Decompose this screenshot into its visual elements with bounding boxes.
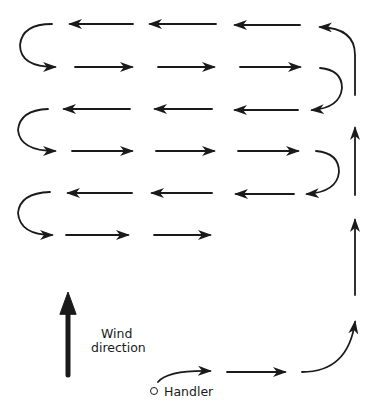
handler-position-icon	[150, 387, 158, 395]
wind-direction-label: Wind direction	[91, 327, 146, 355]
search-pattern-diagram	[0, 0, 371, 411]
right-turn-2	[307, 151, 339, 194]
handler-path-arrows	[158, 322, 355, 382]
handler-label: Handler	[164, 385, 213, 399]
row-3-arrows	[64, 109, 298, 110]
wind-label-line2: direction	[91, 341, 146, 355]
wind-label-line1: Wind	[91, 327, 146, 341]
left-turn-1	[20, 24, 55, 67]
right-turn-1	[312, 68, 342, 110]
wind-direction-arrow-icon	[60, 292, 76, 375]
row-5-arrows	[68, 193, 294, 194]
left-turn-3	[18, 192, 52, 235]
left-turn-2	[18, 109, 55, 151]
row-1-arrows	[70, 24, 355, 95]
